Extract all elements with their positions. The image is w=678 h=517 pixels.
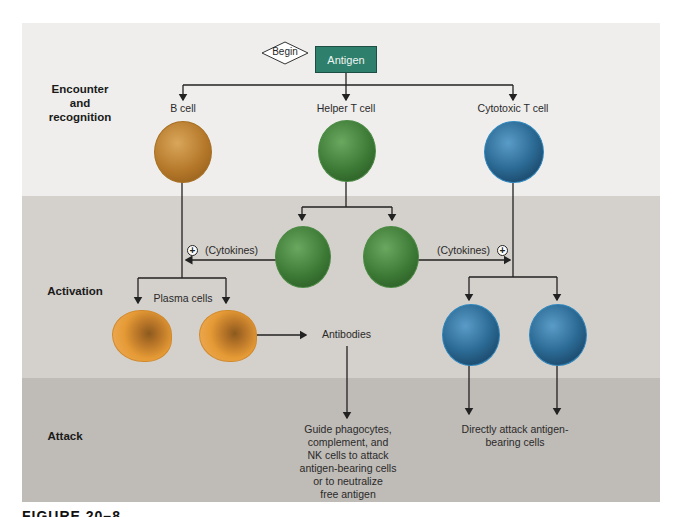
helper-t-cell-label: Helper T cell (306, 102, 386, 114)
plus-icon-right: + (497, 245, 508, 256)
cytotoxic-t-clone-2-icon (529, 304, 587, 366)
cytokines-left-label: (Cytokines) (205, 244, 258, 256)
plasma-cell-2-icon (199, 310, 257, 362)
cytotoxic-outcome-text: Directly attack antigen- bearing cells (456, 423, 574, 449)
plasma-cell-1-icon (112, 310, 172, 362)
b-cell-label: B cell (153, 102, 213, 114)
antibodies-label: Antibodies (322, 328, 371, 340)
helper-t-clone-1-icon (275, 226, 331, 288)
begin-label: Begin (262, 46, 308, 57)
cytotoxic-t-cell-label: Cytotoxic T cell (468, 102, 558, 114)
figure-caption: FIGURE 20–8 (22, 508, 121, 517)
cytotoxic-t-clone-1-icon (442, 304, 500, 366)
helper-t-cell-icon (318, 120, 376, 182)
b-cell-icon (154, 121, 212, 183)
cytotoxic-t-cell-icon (484, 121, 544, 183)
antibody-outcome-text: Guide phagocytes, complement, and NK cel… (293, 423, 403, 501)
helper-t-clone-2-icon (363, 226, 419, 288)
plasma-cells-label: Plasma cells (150, 292, 216, 304)
plus-icon-left: + (187, 245, 198, 256)
antigen-box: Antigen (315, 46, 377, 73)
cytokines-right-label: (Cytokines) (437, 244, 490, 256)
